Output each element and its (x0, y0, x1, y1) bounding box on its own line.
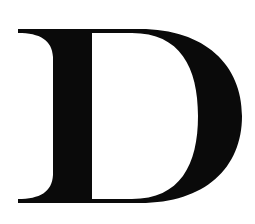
serif-letter-d-icon (0, 0, 255, 224)
letter-canvas: D (0, 0, 255, 224)
